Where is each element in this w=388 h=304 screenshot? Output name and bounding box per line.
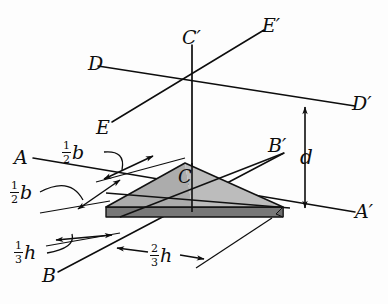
fraction-half-b-lower: 1 2 bbox=[10, 180, 19, 205]
label-two-thirds-h: 2 3 h bbox=[150, 243, 172, 268]
dimension-two-thirds-h bbox=[117, 218, 272, 268]
symbol-h-two-thirds: h bbox=[160, 246, 172, 265]
fraction-two-thirds-h: 2 3 bbox=[150, 243, 159, 268]
triangular-plate bbox=[106, 153, 290, 217]
label-axis-C-prime: C′ bbox=[182, 28, 201, 47]
fraction-third-h: 1 3 bbox=[14, 240, 23, 265]
dimension-half-b-upper-leader bbox=[104, 152, 123, 170]
triangular-plate-axes-figure: D D′ E E′ C′ A A′ B B′ C d 1 2 b 1 2 b 1… bbox=[0, 0, 388, 304]
label-axis-D-prime: D′ bbox=[352, 94, 372, 113]
dimension-two-thirds-h-arrow-left bbox=[117, 248, 148, 252]
label-half-b-upper: 1 2 b bbox=[62, 140, 84, 165]
label-axis-E: E bbox=[96, 118, 110, 137]
symbol-b-upper: b bbox=[72, 143, 84, 162]
fraction-half-b-upper: 1 2 bbox=[62, 140, 71, 165]
label-half-b-lower: 1 2 b bbox=[10, 180, 32, 205]
axis-line-D-Dprime bbox=[98, 66, 355, 106]
label-centroid-C: C bbox=[178, 168, 192, 186]
label-dimension-d: d bbox=[300, 147, 313, 167]
label-axis-B-prime: B′ bbox=[268, 136, 286, 155]
dimension-half-b-upper-arrow bbox=[104, 156, 153, 179]
label-axis-A-prime: A′ bbox=[355, 202, 373, 221]
label-third-h: 1 3 h bbox=[14, 240, 36, 265]
dimension-half-b-lower-guide bbox=[40, 201, 110, 213]
label-axis-B: B bbox=[42, 266, 56, 285]
dimension-third-h bbox=[46, 233, 120, 253]
dimension-two-thirds-h-guide bbox=[196, 218, 272, 268]
label-axis-A: A bbox=[14, 148, 28, 167]
dimension-two-thirds-h-arrow-right bbox=[180, 255, 204, 259]
label-axis-E-prime: E′ bbox=[262, 16, 280, 35]
dimension-half-b-lower-leader bbox=[40, 186, 83, 200]
label-axis-D: D bbox=[88, 54, 103, 73]
symbol-h-third: h bbox=[24, 243, 36, 262]
symbol-b-lower: b bbox=[20, 183, 32, 202]
